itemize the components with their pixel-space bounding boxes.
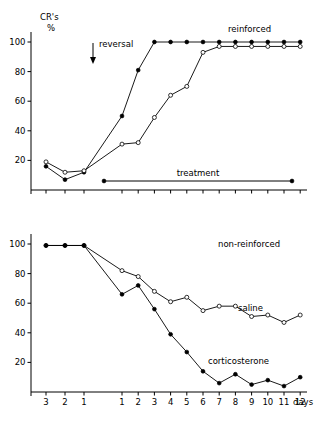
treatment-bar-cap-right <box>290 179 294 183</box>
y-tick-label: 100 <box>9 239 25 249</box>
data-point-open <box>44 160 48 164</box>
reversal-arrow-head <box>90 57 96 64</box>
data-point-open <box>266 313 270 317</box>
data-point-open <box>233 304 237 308</box>
data-point-open <box>282 320 286 324</box>
non-reinforced-chart: 20406080100321123456789101112non-reinfor… <box>0 212 318 424</box>
data-point-open <box>152 115 156 119</box>
data-point-open <box>63 170 67 174</box>
data-point-filled <box>298 40 302 44</box>
series-label-corticosterone: corticosterone <box>208 356 269 366</box>
series-line-saline <box>46 46 300 172</box>
data-point-filled <box>44 244 48 248</box>
data-point-filled <box>44 164 48 168</box>
data-point-open <box>233 44 237 48</box>
x-tick-label: 6 <box>200 397 205 407</box>
data-point-filled <box>250 40 254 44</box>
x-tick-label: 2 <box>135 397 140 407</box>
y-tick-label: 100 <box>9 37 25 47</box>
treatment-label: treatment <box>177 168 220 178</box>
x-tick-label: 11 <box>279 397 290 407</box>
data-point-filled <box>82 244 86 248</box>
x-tick-label: 10 <box>262 397 273 407</box>
x-tick-label: 3 <box>152 397 157 407</box>
y-tick-label: 60 <box>15 96 26 106</box>
x-tick-label: 2 <box>62 397 67 407</box>
data-point-open <box>82 169 86 173</box>
data-point-open <box>250 44 254 48</box>
x-axis-title: days <box>293 397 314 407</box>
data-point-filled <box>217 381 221 385</box>
series-label-saline: saline <box>238 303 263 313</box>
x-tick-label: 8 <box>233 397 238 407</box>
data-point-filled <box>136 68 140 72</box>
data-point-filled <box>282 40 286 44</box>
data-point-open <box>266 44 270 48</box>
y-tick-label: 40 <box>15 328 26 338</box>
data-point-filled <box>63 178 67 182</box>
data-point-open <box>136 141 140 145</box>
series-line-corticosterone <box>46 42 300 180</box>
data-point-open <box>298 44 302 48</box>
data-point-open <box>217 304 221 308</box>
data-point-open <box>282 44 286 48</box>
data-point-filled <box>120 114 124 118</box>
data-point-open <box>120 142 124 146</box>
x-tick-label: 5 <box>184 397 189 407</box>
data-point-filled <box>63 244 67 248</box>
x-tick-label: 3 <box>43 397 48 407</box>
y-tick-label: 80 <box>15 67 26 77</box>
data-point-open <box>185 295 189 299</box>
top-chart-panel: 20406080100CR's%reinforcedreversaltreatm… <box>0 0 318 212</box>
x-tick-label: 1 <box>119 397 124 407</box>
data-point-filled <box>153 307 157 311</box>
y-axis-title-line1: CR's <box>40 12 59 22</box>
data-point-open <box>169 300 173 304</box>
x-tick-label: 4 <box>168 397 173 407</box>
data-point-filled <box>169 40 173 44</box>
x-tick-label: 9 <box>249 397 254 407</box>
data-point-filled <box>185 40 189 44</box>
data-point-open <box>169 93 173 97</box>
data-point-filled <box>266 378 270 382</box>
data-point-filled <box>282 384 286 388</box>
y-axis-title-line2: % <box>47 23 55 33</box>
data-point-filled <box>153 40 157 44</box>
x-tick-label: 7 <box>216 397 221 407</box>
y-tick-label: 20 <box>15 155 26 165</box>
data-point-filled <box>234 40 238 44</box>
data-point-filled <box>185 350 189 354</box>
y-tick-label: 20 <box>15 357 26 367</box>
data-point-open <box>185 84 189 88</box>
data-point-open <box>201 50 205 54</box>
data-point-filled <box>169 332 173 336</box>
reinforced-chart: 20406080100CR's%reinforcedreversaltreatm… <box>0 0 318 212</box>
data-point-open <box>136 275 140 279</box>
data-point-open <box>217 44 221 48</box>
panel-title-non-reinforced: non-reinforced <box>218 239 280 249</box>
reversal-label: reversal <box>99 39 133 49</box>
data-point-filled <box>234 372 238 376</box>
treatment-bar-cap-left <box>102 179 106 183</box>
data-point-filled <box>217 40 221 44</box>
data-point-filled <box>201 369 205 373</box>
data-point-open <box>250 315 254 319</box>
data-point-filled <box>136 284 140 288</box>
y-tick-label: 40 <box>15 126 26 136</box>
data-point-filled <box>250 383 254 387</box>
data-point-filled <box>120 292 124 296</box>
data-point-filled <box>201 40 205 44</box>
data-point-filled <box>298 375 302 379</box>
data-point-open <box>201 309 205 313</box>
x-tick-label: 1 <box>81 397 86 407</box>
y-tick-label: 80 <box>15 269 26 279</box>
data-point-filled <box>266 40 270 44</box>
panel-title-reinforced: reinforced <box>228 24 271 34</box>
data-point-open <box>152 289 156 293</box>
data-point-open <box>120 269 124 273</box>
bottom-chart-panel: 20406080100321123456789101112non-reinfor… <box>0 212 318 424</box>
data-point-open <box>298 313 302 317</box>
y-tick-label: 60 <box>15 298 26 308</box>
